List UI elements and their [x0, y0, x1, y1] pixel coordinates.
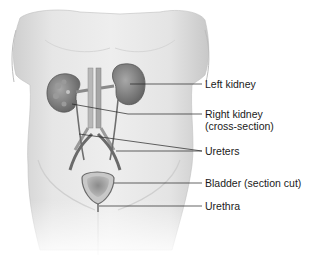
- label-bladder: Bladder (section cut): [205, 177, 301, 189]
- torso: [0, 10, 321, 261]
- label-right-kidney: Right kidney (cross-section): [205, 108, 274, 132]
- label-ureters: Ureters: [205, 145, 239, 157]
- label-left-kidney: Left kidney: [205, 78, 256, 90]
- label-urethra: Urethra: [205, 200, 240, 212]
